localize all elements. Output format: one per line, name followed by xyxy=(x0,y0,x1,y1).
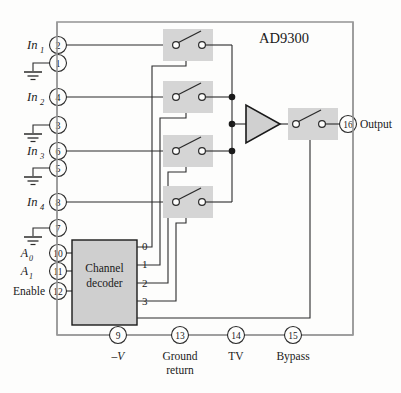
control-line-output-switch xyxy=(137,137,310,318)
ground-row-4: 7 xyxy=(24,220,67,245)
channel-switch-2[interactable] xyxy=(163,81,232,113)
diagram-canvas: AD9300 In 1 2 1 In 2 4 3 In 3 xyxy=(0,0,401,393)
channel-switch-4[interactable] xyxy=(163,186,232,218)
ground-row-1: 1 xyxy=(24,55,67,80)
decoder-label-line2: decoder xyxy=(86,277,123,289)
channel-switch-1[interactable] xyxy=(163,29,232,61)
control-label-enable: Enable xyxy=(13,285,45,297)
input-row-3: In 3 6 xyxy=(26,143,166,161)
ground-row-2: 3 xyxy=(24,117,67,142)
pin-number-10: 10 xyxy=(53,249,63,259)
bottom-pin-15: 15 Bypass xyxy=(276,327,310,364)
pin-number-11: 11 xyxy=(53,267,62,277)
pin-number-12: 12 xyxy=(53,287,63,297)
switch-terminal-in-2 xyxy=(173,94,180,101)
wire-gnd-2 xyxy=(33,125,50,133)
switch-terminal-out-3 xyxy=(199,148,206,155)
output-switch-terminal-out xyxy=(319,121,326,128)
bottom-label-15: Bypass xyxy=(276,350,310,363)
input-subscript-4: 4 xyxy=(40,202,45,212)
output-switch[interactable] xyxy=(288,108,339,140)
ad9300-block-diagram: AD9300 In 1 2 1 In 2 4 3 In 3 xyxy=(0,0,401,393)
wire-gnd-4 xyxy=(33,228,50,236)
control-subscript-a0: 0 xyxy=(29,254,33,263)
decoder-label-line1: Channel xyxy=(85,262,123,274)
bottom-pin-14: 14 TV xyxy=(228,327,245,363)
input-label-2: In xyxy=(26,90,37,104)
switch-terminal-out-4 xyxy=(199,199,206,206)
input-row-4: In 4 8 xyxy=(26,194,166,212)
junction-dot-3 xyxy=(229,148,236,155)
input-subscript-1: 1 xyxy=(40,45,44,55)
switch-terminal-in-1 xyxy=(173,42,180,49)
control-row-a0: A 0 10 xyxy=(20,245,72,263)
pin-number-16: 16 xyxy=(343,120,353,130)
bottom-pin-13: 13 Ground return xyxy=(162,327,197,377)
input-row-2: In 2 4 xyxy=(26,89,166,107)
output-label: Output xyxy=(360,118,393,131)
bottom-pin-9: 9 –V xyxy=(110,327,127,363)
pin-number-9: 9 xyxy=(116,331,121,341)
junction-dot-1 xyxy=(229,94,236,101)
switch-terminal-out-1 xyxy=(199,42,206,49)
bottom-label-13-line2: return xyxy=(166,364,194,376)
output-amplifier xyxy=(246,105,292,143)
control-subscript-a1: 1 xyxy=(29,272,33,281)
control-row-a1: A 1 11 xyxy=(20,263,72,281)
wire-gnd-3 xyxy=(33,168,50,176)
input-subscript-3: 3 xyxy=(39,151,44,161)
input-subscript-2: 2 xyxy=(40,97,45,107)
pin-number-14: 14 xyxy=(231,331,241,341)
switch-terminal-in-4 xyxy=(173,199,180,206)
control-label-a0: A xyxy=(20,246,29,260)
input-label-1: In xyxy=(26,38,37,52)
ground-row-3: 5 xyxy=(24,160,67,185)
bottom-label-14: TV xyxy=(228,350,244,362)
control-label-a1: A xyxy=(20,264,29,278)
input-label-4: In xyxy=(26,195,37,209)
control-row-enable: Enable 12 xyxy=(13,283,72,300)
amplifier-triangle xyxy=(246,105,280,143)
switch-terminal-in-3 xyxy=(173,148,180,155)
input-row-1: In 1 2 xyxy=(26,37,166,55)
output-switch-terminal-in xyxy=(293,121,300,128)
decoder-output-label-1: 1 xyxy=(142,258,148,270)
pin-number-13: 13 xyxy=(175,331,185,341)
pin-number-15: 15 xyxy=(288,331,298,341)
bottom-label-9: –V xyxy=(111,350,127,362)
bottom-label-13: Ground xyxy=(162,350,197,362)
decoder-output-label-0: 0 xyxy=(142,240,148,252)
wire-gnd-1 xyxy=(33,63,50,71)
switch-terminal-out-2 xyxy=(199,94,206,101)
part-number-label: AD9300 xyxy=(259,30,309,46)
output-pin-group: 16 Output xyxy=(340,116,393,133)
channel-switch-3[interactable] xyxy=(163,135,232,167)
channel-decoder-block[interactable]: Channel decoder xyxy=(72,240,137,325)
input-label-3: In xyxy=(26,144,37,158)
